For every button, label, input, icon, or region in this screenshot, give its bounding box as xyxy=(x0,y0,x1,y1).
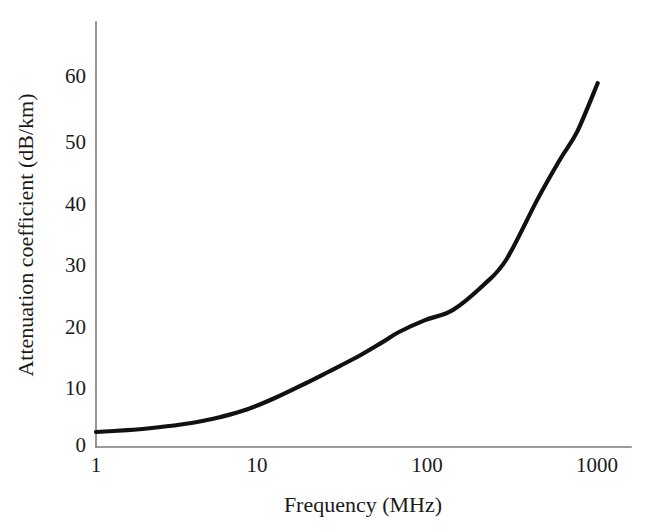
y-tick-label-group: 0 10 20 30 40 50 60 xyxy=(65,64,86,457)
data-curve-attenuation xyxy=(96,83,598,432)
x-tick-label: 10 xyxy=(247,453,268,477)
y-tick-label: 0 xyxy=(76,433,87,457)
y-axis-title: Attenuation coefficient (dB/km) xyxy=(13,93,38,376)
y-tick-label: 50 xyxy=(65,130,86,154)
y-tick-label: 40 xyxy=(65,192,86,216)
y-tick-label: 10 xyxy=(65,376,86,400)
y-tick-label: 60 xyxy=(65,64,86,88)
y-tick-label: 30 xyxy=(65,253,86,277)
chart-canvas: 0 10 20 30 40 50 60 1 10 100 1000 Freque… xyxy=(0,0,654,532)
x-tick-label: 1 xyxy=(91,453,102,477)
attenuation-frequency-figure: 0 10 20 30 40 50 60 1 10 100 1000 Freque… xyxy=(0,0,654,532)
y-tick-label: 20 xyxy=(65,315,86,339)
x-tick-label: 100 xyxy=(411,453,443,477)
x-tick-label-group: 1 10 100 1000 xyxy=(91,453,618,477)
x-axis-title: Frequency (MHz) xyxy=(284,492,442,517)
x-tick-label: 1000 xyxy=(576,453,618,477)
